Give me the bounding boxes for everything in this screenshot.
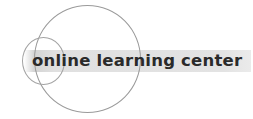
logo-title: online learning center xyxy=(32,50,242,72)
online-learning-center-logo: online learning center xyxy=(0,0,253,119)
